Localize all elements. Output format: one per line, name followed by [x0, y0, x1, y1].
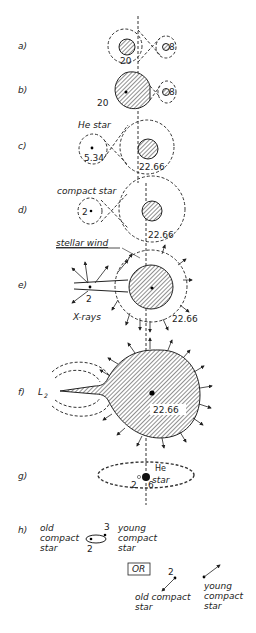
- stage-e-label: e): [18, 280, 27, 290]
- stage-h: h) old compact star 3 2 young compact st…: [18, 522, 243, 612]
- old-compact-label: old compact: [135, 592, 191, 602]
- lagrange-l2-subscript: 2: [44, 392, 48, 399]
- lagrange-l2-label: L: [38, 387, 43, 397]
- stage-c-label: c): [18, 141, 26, 151]
- compact-label: compact: [118, 533, 157, 543]
- or-label: OR: [132, 564, 145, 574]
- mass-5-34-label: 5.34: [84, 153, 104, 163]
- stage-g-label: g): [18, 471, 27, 481]
- mass-2-label: 2: [168, 567, 174, 577]
- stage-e: stellar wind e) 2 X-rays 22.66: [18, 238, 198, 332]
- stage-f: f) L 2 22.66: [18, 338, 212, 448]
- x-rays-label: X-rays: [72, 312, 101, 322]
- mass-20-label: 20: [120, 56, 132, 66]
- stage-d-label: d): [18, 205, 27, 215]
- stellar-wind-label: stellar wind: [56, 238, 108, 248]
- mass-22-66-label: 22.66: [172, 314, 198, 324]
- stage-b: b) 20 8: [18, 72, 176, 109]
- stage-a-label: a): [18, 41, 27, 51]
- mass-2-label: 2: [131, 480, 137, 490]
- mass-22-66-label: 22.66: [148, 230, 174, 240]
- mass-2-label: 2: [87, 544, 93, 554]
- stage-h-label: h): [18, 525, 27, 535]
- mass-2-label: 2: [86, 294, 92, 304]
- mass-6-label: 6: [148, 480, 154, 490]
- mass-22-66-label: 22.66: [153, 405, 179, 415]
- mass-8-label: 8: [169, 87, 175, 97]
- mass-2-label: 2: [82, 207, 88, 217]
- stage-g: g) He star 2 6: [18, 462, 194, 490]
- young-label: young: [117, 523, 146, 533]
- stage-b-label: b): [18, 85, 27, 95]
- stage-a: a) 20 8: [18, 29, 176, 66]
- mass-22-66-label: 22.66: [139, 162, 165, 172]
- binary-evolution-diagram: a) 20 8 b) 20 8 He star c) 5.34 22.66 co…: [0, 0, 256, 633]
- mass-8-label: 8: [169, 42, 175, 52]
- star-label: star: [135, 602, 154, 612]
- stage-d: compact star d) 2 22.66: [18, 176, 185, 242]
- stage-f-label: f): [18, 387, 25, 397]
- star-label: star: [204, 601, 223, 611]
- star-label: star: [118, 543, 137, 553]
- stage-c: He star c) 5.34 22.66: [18, 120, 174, 174]
- old-label: old: [40, 523, 54, 533]
- star-label: star: [152, 475, 171, 485]
- star-label: star: [40, 543, 59, 553]
- he-star-label: He star: [78, 120, 112, 130]
- he-label: He: [155, 464, 166, 473]
- young-label: young: [203, 581, 232, 591]
- compact-label: compact: [204, 591, 243, 601]
- compact-label: compact: [40, 533, 79, 543]
- mass-3-label: 3: [104, 522, 110, 532]
- mass-20-label: 20: [97, 98, 109, 108]
- compact-star-label: compact star: [57, 186, 118, 196]
